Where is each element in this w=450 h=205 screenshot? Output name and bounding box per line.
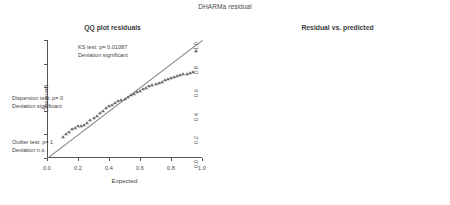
x-tick-label: 0.2 — [74, 165, 82, 171]
annotation-ks-test: KS test: p= 0.01087 Deviation significan… — [78, 44, 128, 59]
x-tick-label: 0.4 — [105, 165, 113, 171]
annotation-dispersion-test: Dispersion test: p= 0 Deviation signific… — [12, 95, 63, 110]
y-tick-mark — [44, 111, 47, 112]
x-tick-label: 0.0 — [43, 165, 51, 171]
x-tick-mark — [171, 158, 172, 161]
y-tick-mark — [44, 87, 47, 88]
outlier-test-line1: Outlier test: p= 1 — [12, 139, 53, 147]
qq-x-axis-title: Expected — [47, 177, 202, 184]
y-tick-mark — [44, 64, 47, 65]
y-tick-mark — [44, 40, 47, 41]
outlier-test-line2: Deviation n.s. — [12, 147, 53, 155]
qq-data-point — [92, 116, 96, 119]
y-tick-label: 0.6 — [193, 84, 199, 102]
ks-test-line2: Deviation significant — [78, 52, 128, 60]
qq-data-point — [191, 70, 195, 73]
qq-data-point — [61, 136, 65, 139]
x-tick-label: 0.8 — [167, 165, 175, 171]
y-tick-label: 0.4 — [193, 108, 199, 126]
x-tick-mark — [140, 158, 141, 161]
qq-data-point — [194, 49, 198, 52]
y-tick-label: 0.2 — [193, 131, 199, 149]
panel-resvpred-title: Residual vs. predicted — [225, 24, 450, 31]
dispersion-test-line2: Deviation significant — [12, 103, 63, 111]
panel-qq-title: QQ plot residuals — [0, 24, 225, 31]
dharma-residual-figure: DHARMa residual QQ plot residuals Expect… — [0, 0, 450, 205]
y-tick-mark — [44, 134, 47, 135]
dispersion-test-line1: Dispersion test: p= 0 — [12, 95, 63, 103]
ks-test-line1: KS test: p= 0.01087 — [78, 44, 128, 52]
qq-x-axis — [47, 157, 202, 158]
x-tick-label: 1.0 — [198, 165, 206, 171]
qq-data-point — [64, 133, 68, 136]
panel-residual-vs-predicted: Residual vs. predicted Model predictions… — [225, 0, 450, 205]
qq-data-point — [95, 114, 99, 117]
x-tick-mark — [78, 158, 79, 161]
x-tick-mark — [109, 158, 110, 161]
y-tick-label: 0.0 — [193, 155, 199, 173]
panel-qq-plot: QQ plot residuals Expected Observed 0.00… — [0, 0, 225, 205]
annotation-outlier-test: Outlier test: p= 1 Deviation n.s. — [12, 139, 53, 154]
x-tick-label: 0.6 — [136, 165, 144, 171]
x-tick-mark — [202, 158, 203, 161]
